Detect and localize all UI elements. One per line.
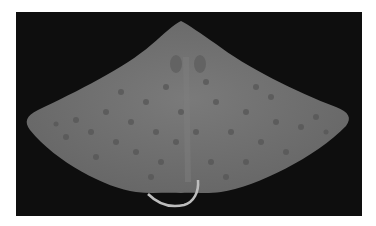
ray-illustration <box>16 12 362 216</box>
specimen-photo <box>16 12 362 216</box>
